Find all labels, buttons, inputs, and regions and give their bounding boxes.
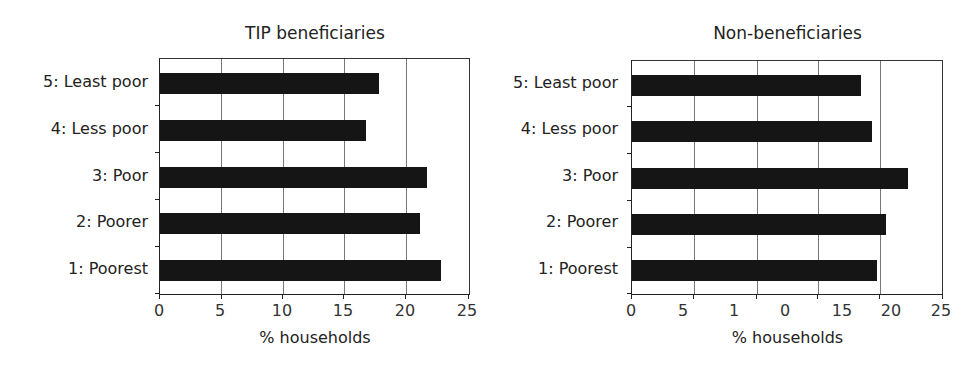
y-label: 1: Poorest: [538, 259, 618, 278]
y-label: 3: Poor: [562, 166, 618, 185]
y-tick: [627, 200, 631, 201]
x-tick: [693, 294, 694, 299]
x-tick-label: 25: [926, 301, 956, 320]
y-tick: [627, 247, 631, 248]
x-tick: [879, 294, 880, 299]
bar-poorer: [632, 214, 886, 235]
y-label: 5: Least poor: [513, 73, 618, 92]
plot-area: [631, 60, 943, 295]
x-tick-label: 15: [827, 301, 857, 320]
x-tick-label: 0: [770, 301, 800, 320]
y-tick: [627, 106, 631, 107]
y-tick: [627, 153, 631, 154]
bar-least-poor: [632, 75, 861, 96]
x-tick: [817, 294, 818, 299]
x-tick-label: 1: [719, 301, 749, 320]
y-label: 4: Less poor: [521, 119, 618, 138]
x-axis-title: % households: [632, 328, 943, 347]
bar-poorest: [632, 260, 877, 281]
chart-non-beneficiaries: Non-beneficiaries 5: Least poor 4: Less …: [0, 0, 979, 368]
y-label: 2: Poorer: [546, 212, 618, 231]
bar-less-poor: [632, 121, 872, 142]
x-tick: [631, 294, 632, 299]
x-tick: [756, 294, 757, 299]
x-tick: [942, 294, 943, 299]
bar-poor: [632, 168, 908, 189]
chart-title: Non-beneficiaries: [632, 23, 943, 43]
x-tick-label: 20: [876, 301, 906, 320]
x-tick-label: 0: [616, 301, 646, 320]
x-tick-label: 5: [668, 301, 698, 320]
